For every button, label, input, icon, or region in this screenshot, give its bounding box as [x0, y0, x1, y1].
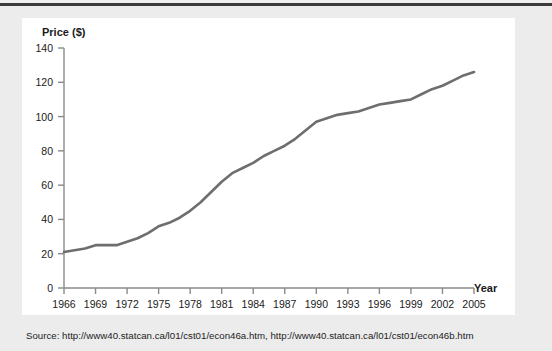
- y-axis-title: Price ($): [42, 26, 86, 38]
- y-tick-label: 40: [41, 213, 53, 225]
- x-tick-label: 1984: [242, 298, 266, 310]
- y-tick-label: 60: [41, 179, 53, 191]
- y-tick-label: 120: [35, 76, 53, 88]
- x-tick-label: 1972: [115, 298, 139, 310]
- x-tick-label: 1975: [147, 298, 171, 310]
- y-tick-label: 100: [35, 111, 53, 123]
- x-tick-label: 1999: [399, 298, 423, 310]
- y-tick-label: 80: [41, 145, 53, 157]
- x-axis-ticks: 1966196919721975197819811984198719901993…: [52, 288, 486, 310]
- y-tick-label: 0: [47, 282, 53, 294]
- x-tick-label: 2005: [462, 298, 486, 310]
- x-tick-label: 2002: [431, 298, 455, 310]
- x-tick-label: 1969: [84, 298, 108, 310]
- x-tick-label: 1990: [305, 298, 329, 310]
- chart-panel: Price ($) Year 020406080100120140 196619…: [22, 18, 515, 315]
- x-tick-label: 1987: [273, 298, 297, 310]
- x-tick-label: 1981: [210, 298, 234, 310]
- y-axis-title-group: Price ($): [42, 26, 86, 38]
- y-tick-label: 140: [35, 42, 53, 54]
- y-tick-label: 20: [41, 248, 53, 260]
- x-tick-label: 1996: [368, 298, 392, 310]
- x-tick-label: 1993: [336, 298, 360, 310]
- x-tick-label: 1966: [52, 298, 76, 310]
- x-axis-title-group: Year: [474, 282, 498, 294]
- x-tick-label: 1978: [178, 298, 202, 310]
- source-caption: Source: http://www40.statcan.ca/l01/cst0…: [26, 330, 546, 341]
- y-axis-ticks: 020406080100120140: [35, 42, 64, 294]
- data-line-price: [64, 72, 474, 252]
- line-chart: Price ($) Year 020406080100120140 196619…: [22, 18, 515, 315]
- x-axis-title: Year: [474, 282, 498, 294]
